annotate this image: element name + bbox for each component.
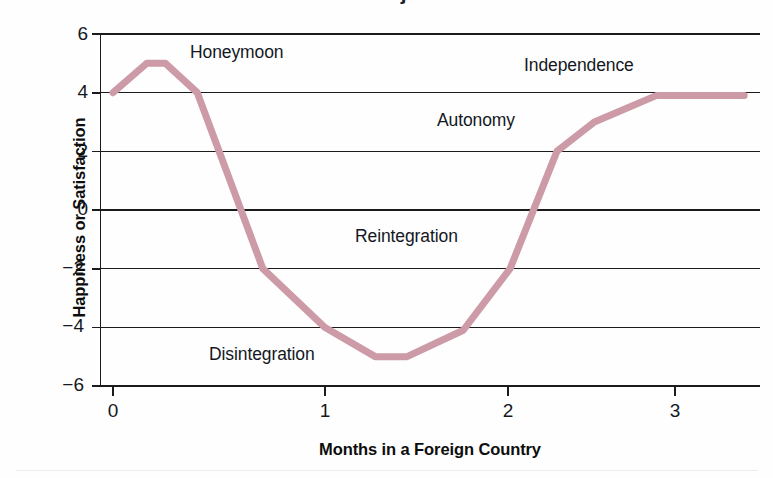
ytick-label-minus-6: −6 xyxy=(44,374,84,396)
chart-figure: Culture Shock: Phases of Adjustment xyxy=(0,0,773,478)
y-axis-ticks xyxy=(92,34,100,386)
ytick-label-6: 6 xyxy=(48,23,88,45)
gridlines xyxy=(100,34,760,327)
xtick-label-3: 3 xyxy=(655,400,695,422)
annotation-independence: Independence xyxy=(524,55,634,76)
x-axis-title: Months in a Foreign Country xyxy=(100,440,760,459)
annotation-reintegration: Reintegration xyxy=(355,226,458,247)
page-divider-rule xyxy=(16,470,758,471)
xtick-label-2: 2 xyxy=(488,400,528,422)
annotation-disintegration: Disintegration xyxy=(209,344,315,365)
xtick-label-1: 1 xyxy=(305,400,345,422)
y-axis-title: Happiness or Satisfaction xyxy=(70,63,89,373)
annotation-autonomy: Autonomy xyxy=(437,110,515,131)
xtick-label-0: 0 xyxy=(93,400,133,422)
x-axis-ticks xyxy=(113,386,675,396)
annotation-honeymoon: Honeymoon xyxy=(190,42,283,63)
